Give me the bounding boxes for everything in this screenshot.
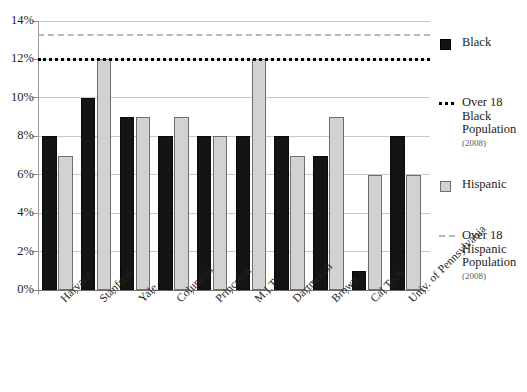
legend-year-hispanic-population: (2008) [462, 271, 486, 281]
x-tick-mark [386, 290, 387, 294]
bar-hispanic[interactable] [213, 136, 228, 290]
y-tick-label: 6% [0, 167, 34, 182]
x-tick-mark [348, 290, 349, 294]
bar-hispanic[interactable] [252, 59, 267, 290]
dotted-line-icon [439, 102, 454, 105]
x-tick-mark [193, 290, 194, 294]
bar-black[interactable] [81, 98, 96, 290]
y-tick-label: 0% [0, 282, 34, 297]
x-tick-mark [38, 290, 39, 294]
legend-label-hispanic: Hispanic [462, 178, 506, 192]
legend-label-black-population: Over 18 Black Population [462, 96, 516, 137]
bar-black[interactable] [274, 136, 289, 290]
y-tick-label: 10% [0, 90, 34, 105]
reference-line-black-population [38, 58, 430, 61]
reference-line-hispanic-population [38, 34, 430, 36]
bar-black[interactable] [158, 136, 173, 290]
legend-year-black-population: (2008) [462, 138, 486, 148]
bar-black[interactable] [120, 117, 135, 290]
bar-hispanic[interactable] [136, 117, 151, 290]
x-tick-mark [425, 290, 426, 294]
y-tick-label: 8% [0, 128, 34, 143]
legend-label-hispanic-population: Over 18 Hispanic Population [462, 229, 516, 270]
bar-black[interactable] [42, 136, 57, 290]
y-tick-label: 14% [0, 13, 34, 28]
y-tick-label: 2% [0, 244, 34, 259]
gray-square-swatch [440, 181, 451, 192]
x-tick-mark [232, 290, 233, 294]
bar-hispanic[interactable] [174, 117, 189, 290]
x-tick-mark [309, 290, 310, 294]
x-tick-mark [154, 290, 155, 294]
bar-hispanic[interactable] [406, 175, 421, 290]
bar-hispanic[interactable] [368, 175, 383, 290]
legend-label-black: Black [462, 36, 491, 50]
chart-legend: Black Over 18 Black Population (2008) Hi… [436, 0, 527, 392]
plot-area [38, 21, 425, 290]
bar-hispanic[interactable] [329, 117, 344, 290]
dashed-line-icon [439, 235, 455, 237]
bar-hispanic[interactable] [58, 156, 73, 291]
bar-hispanic[interactable] [97, 59, 112, 290]
x-tick-mark [270, 290, 271, 294]
x-tick-mark [77, 290, 78, 294]
black-square-swatch [440, 39, 451, 50]
bar-chart: 0%2%4%6%8%10%12%14% HarvardStanfordYaleC… [0, 0, 527, 392]
bar-hispanic[interactable] [290, 156, 305, 291]
y-tick-label: 12% [0, 51, 34, 66]
x-tick-mark [115, 290, 116, 294]
y-tick-label: 4% [0, 205, 34, 220]
